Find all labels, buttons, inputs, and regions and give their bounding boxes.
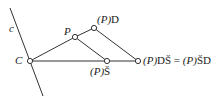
node-ps (104, 58, 109, 63)
edge-p-ps (75, 37, 107, 61)
node-pds (135, 58, 140, 63)
node-pd (91, 25, 96, 30)
diagram-canvas: c C P (P)D (P)Š (P)DŠ = (P)ŠD (0, 0, 221, 99)
label-c: c (9, 23, 14, 34)
label-node-c: C (15, 55, 22, 66)
label-node-pd: (P)D (97, 14, 119, 25)
label-ps-paren: (P) (90, 65, 104, 77)
node-c (27, 58, 32, 63)
node-p (72, 34, 77, 39)
line-c (10, 8, 43, 96)
label-node-pds: (P)DŠ = (P)ŠD (143, 55, 211, 66)
label-pd-paren: (P) (97, 13, 111, 25)
label-pd-rest: D (111, 13, 119, 25)
edge-p-pd (75, 28, 94, 37)
edge-c-p (30, 37, 75, 61)
label-pds-rest1: DŠ (157, 54, 171, 66)
label-pds-eq: = (171, 54, 183, 66)
label-pds-paren1: (P) (143, 54, 157, 66)
label-node-p: P (64, 26, 71, 37)
label-pds-rest2: ŠD (197, 54, 211, 66)
label-node-ps: (P)Š (90, 66, 110, 77)
label-pds-paren2: (P) (183, 54, 197, 66)
label-ps-rest: Š (104, 65, 110, 77)
